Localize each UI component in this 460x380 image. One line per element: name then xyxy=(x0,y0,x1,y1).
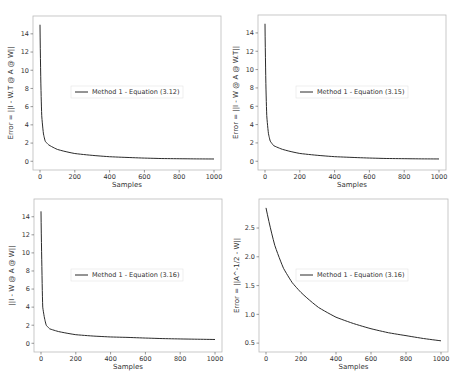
chart-panel-3: 0200400600800100002468101214Samples||I -… xyxy=(8,199,223,371)
x-tick-label: 600 xyxy=(139,355,151,363)
legend: Method 1 - Equation (3.16) xyxy=(71,269,183,281)
y-tick-label: 8 xyxy=(250,84,254,92)
x-tick-label: 800 xyxy=(398,173,410,181)
y-tick-label: 10 xyxy=(246,66,254,74)
y-tick-label: 1.5 xyxy=(245,282,255,290)
y-tick-label: 0 xyxy=(26,340,30,348)
y-tick-label: 6 xyxy=(26,285,30,293)
legend: Method 1 - Equation (3.15) xyxy=(296,86,408,98)
y-tick-label: 4 xyxy=(250,121,254,129)
y-tick-label: 4 xyxy=(26,303,30,311)
x-axis-label: Samples xyxy=(337,181,367,189)
x-tick-label: 0 xyxy=(264,355,268,363)
y-tick-label: 8 xyxy=(26,267,30,275)
x-tick-label: 200 xyxy=(69,173,81,181)
y-tick-label: 2.0 xyxy=(245,253,255,261)
chart-panel-2: 0200400600800100002468101214SamplesError… xyxy=(232,15,447,189)
x-tick-label: 400 xyxy=(103,173,115,181)
y-axis-label: Error = ||A^-1/2 - W|| xyxy=(233,238,241,313)
y-tick-label: 6 xyxy=(250,103,254,111)
y-tick-label: 12 xyxy=(21,48,29,56)
x-tick-label: 1000 xyxy=(431,173,448,181)
x-tick-label: 1000 xyxy=(206,173,223,181)
y-axis-label: ||I - W @ A @ W|| xyxy=(8,245,16,305)
x-tick-label: 1000 xyxy=(207,355,224,363)
y-tick-label: 14 xyxy=(21,30,29,38)
y-tick-label: 12 xyxy=(22,231,30,239)
legend: Method 1 - Equation (3.12) xyxy=(71,86,183,98)
x-tick-label: 200 xyxy=(294,173,306,181)
y-tick-label: 4 xyxy=(25,121,29,129)
figure: 0200400600800100002468101214SamplesError… xyxy=(0,0,460,380)
x-tick-label: 800 xyxy=(174,355,186,363)
x-tick-label: 0 xyxy=(39,355,43,363)
y-tick-label: 2 xyxy=(26,322,30,330)
y-tick-label: 14 xyxy=(246,29,254,37)
legend-label: Method 1 - Equation (3.15) xyxy=(317,88,404,96)
legend-label: Method 1 - Equation (3.16) xyxy=(317,271,404,279)
x-tick-label: 1000 xyxy=(433,355,450,363)
y-tick-label: 14 xyxy=(22,213,30,221)
chart-panel-4: 020040060080010000.51.01.52.02.5SamplesE… xyxy=(233,199,449,371)
y-axis-label: Error = ||I - W @ A @ W.T|| xyxy=(232,46,240,139)
x-tick-label: 600 xyxy=(138,173,150,181)
y-tick-label: 2 xyxy=(250,139,254,147)
y-tick-label: 0 xyxy=(25,158,29,166)
x-tick-label: 600 xyxy=(363,173,375,181)
x-tick-label: 200 xyxy=(295,355,307,363)
x-axis-label: Samples xyxy=(112,181,142,189)
legend-label: Method 1 - Equation (3.16) xyxy=(92,271,179,279)
chart-panel-1: 0200400600800100002468101214SamplesError… xyxy=(7,16,222,189)
y-tick-label: 0.5 xyxy=(245,339,255,347)
y-tick-label: 2 xyxy=(25,139,29,147)
y-tick-label: 12 xyxy=(246,48,254,56)
legend: Method 1 - Equation (3.16) xyxy=(296,269,408,281)
x-tick-label: 0 xyxy=(263,173,267,181)
y-tick-label: 2.5 xyxy=(245,224,255,232)
x-axis-label: Samples xyxy=(339,363,369,371)
x-tick-label: 400 xyxy=(104,355,116,363)
y-tick-label: 8 xyxy=(25,85,29,93)
x-tick-label: 800 xyxy=(400,355,412,363)
legend-label: Method 1 - Equation (3.12) xyxy=(92,88,179,96)
x-tick-label: 400 xyxy=(330,355,342,363)
y-tick-label: 0 xyxy=(250,158,254,166)
x-tick-label: 600 xyxy=(365,355,377,363)
x-tick-label: 800 xyxy=(173,173,185,181)
y-axis-label: Error = ||I - W.T @ A @ W|| xyxy=(7,46,15,139)
x-axis-label: Samples xyxy=(113,363,143,371)
y-tick-label: 10 xyxy=(22,249,30,257)
y-tick-label: 1.0 xyxy=(245,311,255,319)
y-tick-label: 6 xyxy=(25,103,29,111)
y-tick-label: 10 xyxy=(21,67,29,75)
x-tick-label: 400 xyxy=(328,173,340,181)
x-tick-label: 200 xyxy=(70,355,82,363)
x-tick-label: 0 xyxy=(38,173,42,181)
